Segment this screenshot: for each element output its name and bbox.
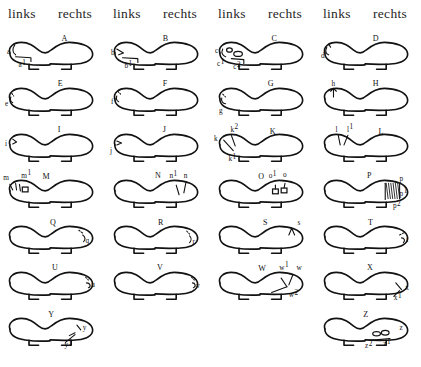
figure-label-k1: k1: [228, 153, 236, 163]
figure-caption-B: B: [163, 34, 168, 43]
figure-outline-upper: [114, 88, 197, 110]
figure-caption-F: F: [163, 79, 168, 88]
figure-detail-mark: [386, 183, 388, 198]
figure-outline-upper: [9, 88, 92, 110]
figure-label-n1: n1: [169, 170, 177, 180]
figure-label-m1: m1: [21, 169, 31, 179]
figure-detail-mark: [222, 49, 226, 57]
figure-caption-J: J: [163, 125, 166, 134]
column-header-rechts-5: rechts: [268, 6, 302, 22]
figure-outline-lower: [325, 237, 365, 249]
figure-B: Bbb1: [105, 28, 210, 74]
figure-label-y1: y1: [64, 339, 72, 349]
column-header-rechts-1: rechts: [58, 6, 92, 22]
figure-caption-I: I: [58, 125, 61, 134]
figure-outline-lower: [325, 191, 365, 203]
figure-label-c: c: [215, 47, 218, 55]
column-header-links-0: links: [8, 6, 36, 22]
figure-detail-box: [273, 189, 279, 194]
figure-detail-mark: [19, 184, 20, 191]
figure-outline-lower: [115, 99, 155, 111]
column-header-links-2: links: [113, 6, 141, 22]
figure-outline-upper: [114, 226, 197, 248]
figure-caption-D: D: [373, 34, 379, 43]
figure-Z: Zzz1z2: [315, 304, 420, 350]
figure-caption-T: T: [368, 218, 373, 227]
figure-detail-mark: [118, 91, 121, 94]
figure-label-o1: o1: [269, 170, 277, 180]
figure-label-u: u: [91, 281, 95, 289]
figure-E: Ee: [0, 74, 105, 120]
figure-N: Nn1n: [105, 166, 210, 212]
figure-detail-mark: [79, 230, 83, 233]
figure-detail-mark: [222, 98, 226, 104]
figure-outline-upper: [9, 226, 92, 248]
figure-label-z: z: [400, 324, 404, 332]
figure-caption-R: R: [158, 218, 164, 227]
figure-U: Uu: [0, 258, 105, 304]
column-header-row: linksrechtslinksrechtslinksrechtslinksre…: [0, 0, 421, 30]
figure-detail-mark: [13, 139, 17, 144]
figure-outline-lower: [10, 191, 50, 203]
figure-label-v: v: [196, 282, 200, 290]
figure-caption-V: V: [157, 263, 163, 272]
figure-label-k: k: [214, 135, 218, 143]
figure-outline-lower: [115, 145, 155, 157]
figure-detail-loop: [227, 48, 233, 52]
figure-I: Ii: [0, 120, 105, 166]
figure-S: Ss: [210, 212, 315, 258]
figure-label-l: l: [335, 126, 337, 134]
column-header-rechts-3: rechts: [163, 6, 197, 22]
figure-R: Rr: [105, 212, 210, 258]
figure-outline-lower: [10, 99, 50, 111]
figure-detail-box: [281, 188, 287, 193]
figure-caption-G: G: [268, 79, 274, 88]
figure-label-b1: b1: [124, 60, 132, 70]
figure-T: Tt: [315, 212, 420, 258]
figure-detail-mark: [400, 233, 404, 235]
figure-grid: Aaa1Bbb1Ccc1c2DdEeFfGgHhIiJjKkk2k1Lll1Mm…: [0, 28, 421, 367]
figure-label-o: o: [283, 171, 287, 179]
figure-caption-M: M: [42, 172, 49, 181]
figure-detail-mark: [326, 47, 329, 55]
figure-detail-mark: [391, 183, 393, 198]
figure-detail-mark: [13, 45, 16, 55]
figure-outline-upper: [324, 42, 407, 64]
figure-M: Mmm1: [0, 166, 105, 212]
figure-caption-S: S: [263, 218, 267, 227]
figure-label-z1: z1: [383, 338, 391, 348]
figure-label-i: i: [5, 140, 7, 148]
figure-detail-mark: [284, 183, 285, 188]
figure-caption-Z: Z: [363, 310, 368, 319]
figure-detail-box: [22, 187, 28, 192]
figure-K: Kkk2k1: [210, 120, 315, 166]
figure-D: Dd: [315, 28, 420, 74]
figure-A: Aaa1: [0, 28, 105, 74]
figure-label-p2: p2: [393, 200, 401, 210]
column-header-links-6: links: [323, 6, 351, 22]
figure-label-m: m: [3, 174, 9, 182]
figure-caption-N: N: [155, 171, 161, 180]
figure-label-f: f: [111, 98, 114, 106]
figure-label-l1: l1: [347, 123, 354, 133]
figure-caption-O: O: [258, 172, 264, 181]
figure-detail-mark: [117, 49, 124, 55]
figure-J: Jj: [105, 120, 210, 166]
figure-outline-lower: [325, 145, 365, 157]
column-header-links-4: links: [218, 6, 246, 22]
figure-outline-lower: [325, 99, 365, 111]
figure-label-h: h: [332, 80, 336, 88]
figure-label-w1: w1: [279, 261, 289, 271]
figure-outline-lower: [220, 237, 260, 249]
figure-outline-lower: [10, 283, 50, 295]
figure-X: Xxx1: [315, 258, 420, 304]
figure-outline-upper: [219, 226, 302, 248]
figure-outline-lower: [115, 237, 155, 249]
figure-Y: Yyy1: [0, 304, 105, 350]
figure-outline-lower: [10, 145, 50, 157]
figure-O: Oo1o: [210, 166, 315, 212]
figure-H: Hh: [315, 74, 420, 120]
figure-outline-upper: [219, 180, 302, 202]
figure-detail-mark: [87, 283, 91, 288]
figure-outline-lower: [115, 283, 155, 295]
